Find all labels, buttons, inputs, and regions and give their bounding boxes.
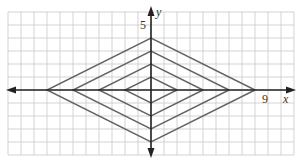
y-axis-label: y (155, 5, 162, 19)
y-axis (148, 6, 155, 158)
coordinate-graph: 9 x 5 y (0, 0, 301, 165)
y-tick-label: 5 (140, 18, 146, 32)
x-axis-label: x (282, 92, 289, 106)
x-axis-left-arrow-icon (6, 87, 16, 94)
y-axis-down-arrow-icon (148, 148, 155, 158)
x-tick-label: 9 (262, 92, 268, 106)
y-axis-up-arrow-icon (148, 6, 155, 16)
